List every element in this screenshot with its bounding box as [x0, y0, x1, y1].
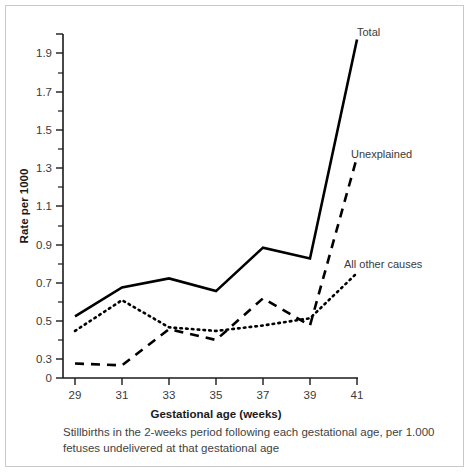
- x-tick-label: 35: [210, 389, 223, 401]
- y-tick-label: 1.3: [36, 162, 52, 174]
- chart-plot-area: 1.9 1.7 1.5 1.3 1.1 0.9 0.7 0.5 0.3 0 29: [6, 6, 465, 468]
- y-tick-label: 0.5: [36, 315, 52, 327]
- series-label-unexplained: Unexplained: [351, 148, 412, 160]
- x-tick-label: 41: [351, 389, 364, 401]
- y-tick-label: 1.9: [36, 47, 52, 59]
- x-tick-label: 31: [116, 389, 129, 401]
- line-chart-svg: 1.9 1.7 1.5 1.3 1.1 0.9 0.7 0.5 0.3 0 29: [6, 6, 465, 468]
- y-tick-label: 0: [46, 372, 52, 384]
- y-axis-major-ticks: [56, 34, 63, 378]
- x-tick-label: 39: [304, 389, 317, 401]
- x-tick-label: 37: [257, 389, 270, 401]
- x-tick-label: 29: [69, 389, 82, 401]
- series-line-all-other-causes: [75, 273, 357, 331]
- x-axis-major-ticks: [75, 378, 357, 385]
- y-tick-label: 0.9: [36, 239, 52, 251]
- y-axis-title: Rate per 1000: [18, 169, 30, 244]
- y-tick-label: 1.1: [36, 200, 52, 212]
- y-tick-label: 1.5: [36, 124, 52, 136]
- series-line-total: [75, 39, 357, 316]
- series-label-total: Total: [357, 26, 380, 38]
- x-axis-title: Gestational age (weeks): [150, 408, 281, 420]
- y-tick-label: 0.7: [36, 277, 52, 289]
- series-line-unexplained: [75, 157, 357, 365]
- y-tick-label: 0.3: [36, 353, 52, 365]
- figure-caption: Stillbirths in the 2-weeks period follow…: [63, 424, 453, 456]
- caption-line-1: Stillbirths in the 2-weeks period follow…: [63, 426, 402, 438]
- series-label-all-other-causes: All other causes: [344, 258, 423, 270]
- x-tick-label: 33: [163, 389, 176, 401]
- y-tick-label: 1.7: [36, 86, 52, 98]
- figure-frame: 1.9 1.7 1.5 1.3 1.1 0.9 0.7 0.5 0.3 0 29: [5, 5, 464, 467]
